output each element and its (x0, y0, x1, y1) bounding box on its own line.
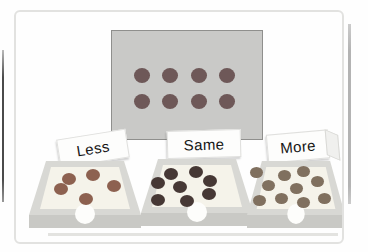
counter-dot (311, 176, 324, 187)
tray-same[interactable] (141, 158, 253, 228)
tray-less[interactable] (29, 160, 141, 230)
counter-dot (219, 94, 235, 109)
counter-dot (219, 68, 235, 83)
less-label-text: Less (75, 138, 111, 160)
counter-dot (290, 183, 303, 194)
counter-dot (162, 94, 178, 109)
tray-less-dots (29, 160, 141, 230)
counter-dot (202, 188, 216, 200)
counter-dot (189, 166, 203, 178)
counter-dot (262, 180, 275, 191)
counter-dot (162, 68, 178, 83)
dot-stimulus-card (111, 30, 263, 140)
counter-dot (107, 180, 121, 192)
page-background: Less Same More (0, 0, 368, 252)
counter-dot (203, 175, 217, 187)
counter-dot (191, 68, 207, 83)
counter-dot (79, 193, 93, 205)
table-shelf-edge (48, 233, 338, 236)
tray-more-dots (247, 160, 344, 230)
more-label-text: More (279, 136, 316, 156)
counter-dot (134, 68, 150, 83)
counter-dot (297, 197, 310, 208)
illustration-panel: Less Same More (14, 10, 344, 244)
counter-dot (318, 193, 331, 204)
tray-more[interactable] (247, 160, 344, 230)
counter-dot (151, 177, 165, 189)
counter-dot (134, 94, 150, 109)
counter-dot (151, 194, 165, 206)
counter-dot (278, 170, 291, 181)
right-page-rule (348, 24, 351, 204)
counter-dot (253, 195, 266, 206)
counter-dot (164, 168, 178, 180)
folded-corner (325, 129, 341, 161)
label-card-same[interactable]: Same (167, 129, 242, 159)
counter-dot (191, 94, 207, 109)
label-card-more[interactable]: More (266, 129, 330, 163)
same-label-text: Same (183, 135, 224, 153)
tray-same-dots (141, 158, 253, 228)
counter-dot (275, 193, 288, 204)
counter-dot (173, 181, 187, 193)
counter-dot (180, 195, 194, 207)
left-page-rule (2, 50, 4, 202)
card-dot-array (112, 31, 262, 139)
counter-dot (297, 166, 310, 177)
counter-dot (86, 169, 100, 181)
counter-dot (54, 183, 68, 195)
counter-dot (250, 167, 263, 178)
